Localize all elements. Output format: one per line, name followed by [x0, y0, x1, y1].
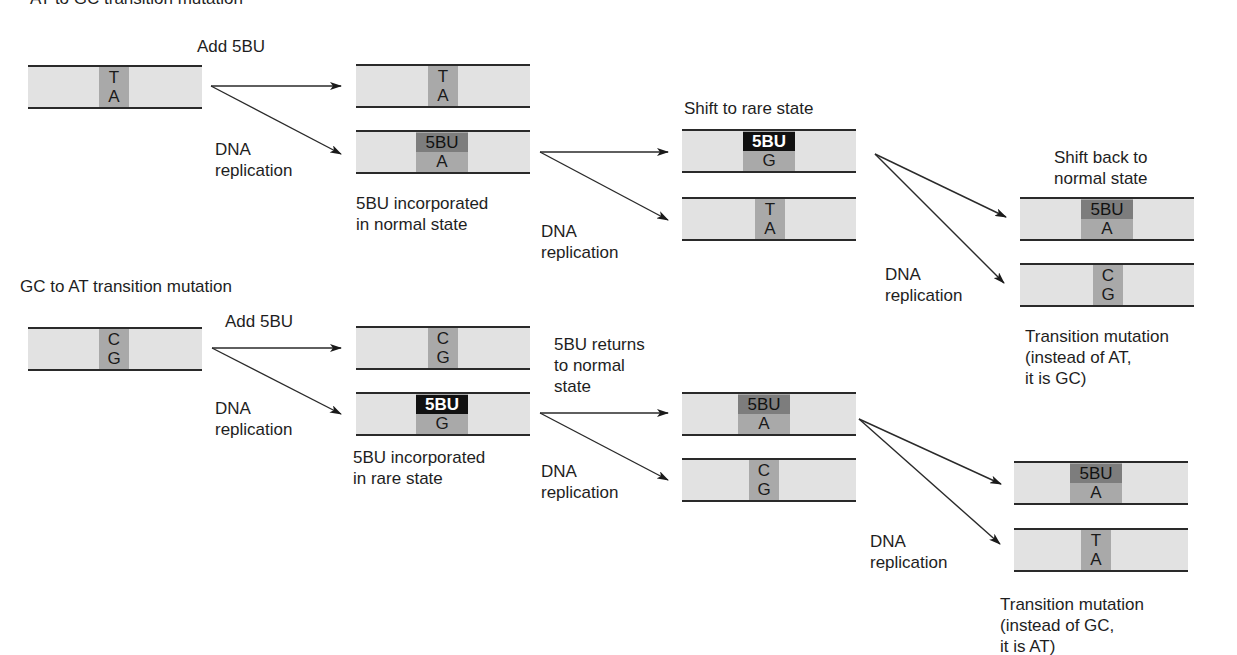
base-5bu-normal: 5BU — [738, 395, 790, 414]
dna-strand-top-copy1: T A — [356, 64, 530, 108]
label-incorporated-rare: 5BU incorporated in rare state — [353, 447, 485, 489]
base-lower: G — [99, 349, 129, 368]
base-pair: C G — [1093, 265, 1123, 305]
dna-strand-top-ta: T A — [682, 197, 856, 241]
base-upper: T — [1081, 531, 1111, 550]
dna-strand-bot-copy1: C G — [356, 326, 530, 370]
label-dna-replication-top1: DNA replication — [215, 139, 293, 181]
label-result-top: Transition mutation (instead of AT, it i… — [1025, 326, 1169, 389]
label-add-5bu-bottom: Add 5BU — [225, 311, 293, 332]
base-pair: T A — [428, 66, 458, 106]
dna-strand-top-cg: C G — [1020, 263, 1194, 307]
dna-strand-bot-cg: C G — [682, 458, 856, 502]
base-5bu-normal: 5BU — [1070, 464, 1122, 483]
base-upper: C — [1093, 266, 1123, 285]
base-pair: T A — [99, 67, 129, 107]
dna-strand-top-back: 5BU A — [1020, 197, 1194, 241]
label-result-bottom: Transition mutation (instead of GC, it i… — [1000, 594, 1144, 655]
base-lower: A — [1081, 219, 1133, 238]
dna-strand-top-start: T A — [28, 65, 202, 109]
base-lower: G — [416, 414, 468, 433]
label-add-5bu-top: Add 5BU — [197, 36, 265, 57]
label-shift-rare: Shift to rare state — [684, 98, 813, 119]
base-lower: A — [738, 414, 790, 433]
label-dna-replication-bot3: DNA replication — [870, 531, 948, 573]
base-pair: 5BU A — [1081, 199, 1133, 239]
base-upper: C — [99, 330, 129, 349]
base-pair: C G — [428, 328, 458, 368]
base-pair: 5BU A — [416, 132, 468, 172]
base-pair: 5BU A — [1070, 463, 1122, 503]
base-lower: G — [749, 480, 779, 499]
dna-strand-top-copy2: 5BU A — [356, 130, 530, 174]
dna-strand-bot-final1: 5BU A — [1014, 461, 1188, 505]
base-pair: T A — [755, 199, 785, 239]
base-pair: 5BU A — [738, 394, 790, 434]
base-upper: C — [749, 461, 779, 480]
label-shift-back: Shift back to normal state — [1054, 147, 1148, 189]
base-pair: 5BU G — [743, 131, 795, 171]
base-lower: A — [1070, 483, 1122, 502]
base-pair: 5BU G — [416, 394, 468, 434]
dna-strand-bot-copy2: 5BU G — [356, 392, 530, 436]
base-lower: A — [99, 87, 129, 106]
label-returns-normal: 5BU returns to normal state — [554, 334, 645, 397]
base-lower: A — [1081, 550, 1111, 569]
base-upper: T — [755, 200, 785, 219]
label-dna-replication-bot1: DNA replication — [215, 398, 293, 440]
base-lower: G — [428, 348, 458, 367]
dna-strand-top-rare: 5BU G — [682, 129, 856, 173]
base-upper: C — [428, 329, 458, 348]
label-dna-replication-top3: DNA replication — [885, 264, 963, 306]
base-5bu-normal: 5BU — [416, 133, 468, 152]
base-lower: G — [743, 151, 795, 170]
label-dna-replication-bot2: DNA replication — [541, 461, 619, 503]
label-incorporated-normal: 5BU incorporated in normal state — [356, 193, 488, 235]
base-pair: T A — [1081, 530, 1111, 570]
dna-strand-bot-normal: 5BU A — [682, 392, 856, 436]
base-5bu-rare: 5BU — [743, 132, 795, 151]
base-lower: A — [416, 152, 468, 171]
label-dna-replication-top2: DNA replication — [541, 221, 619, 263]
base-lower: G — [1093, 285, 1123, 304]
base-pair: C G — [749, 460, 779, 500]
base-5bu-rare: 5BU — [416, 395, 468, 414]
base-lower: A — [755, 219, 785, 238]
base-upper: T — [428, 67, 458, 86]
base-pair: C G — [99, 329, 129, 369]
dna-strand-bot-start: C G — [28, 327, 202, 371]
dna-strand-bot-final2: T A — [1014, 528, 1188, 572]
base-5bu-normal: 5BU — [1081, 200, 1133, 219]
base-upper: T — [99, 68, 129, 87]
base-lower: A — [428, 86, 458, 105]
